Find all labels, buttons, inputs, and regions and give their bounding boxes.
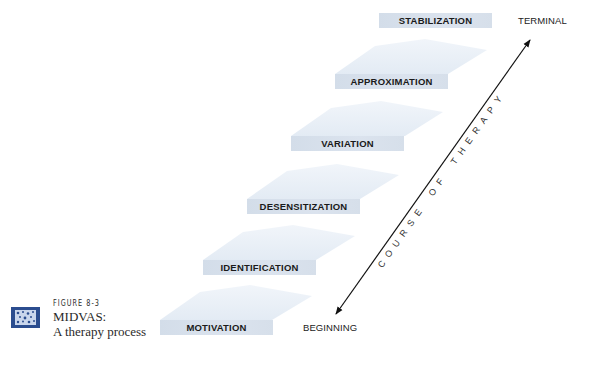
axis-letter: P xyxy=(485,105,497,116)
axis-letter: O xyxy=(383,248,395,260)
figure-number: FIGURE 8-3 xyxy=(53,298,132,309)
figure-subtitle: A therapy process xyxy=(53,324,146,339)
figure-title: MIDVAS: xyxy=(53,309,146,324)
axis-letter: H xyxy=(456,145,468,156)
figure-pattern-icon xyxy=(11,307,40,328)
midvas-diagram: MOTIVATION IDENTIFICATION DESENSITIZATIO… xyxy=(0,0,594,365)
axis-letter: T xyxy=(449,156,461,167)
axis-letter: C xyxy=(376,258,388,269)
axis-letter: S xyxy=(405,218,417,229)
axis-letter: F xyxy=(434,176,446,187)
axis-letter: A xyxy=(478,115,490,126)
axis-letter: O xyxy=(426,186,438,198)
figure-caption: FIGURE 8-3 MIDVAS: A therapy process xyxy=(53,298,146,339)
arrow-line xyxy=(336,40,530,314)
course-of-therapy-label: COURSEOFTHERAPY xyxy=(376,94,504,269)
axis-letter: E xyxy=(463,135,475,146)
axis-letter: Y xyxy=(492,94,504,105)
beginning-label: BEGINNING xyxy=(303,322,357,333)
axis-letter: R xyxy=(470,124,482,135)
axis-letter: E xyxy=(412,207,424,218)
axis-letter: R xyxy=(398,227,410,238)
axis-letter: U xyxy=(390,238,402,249)
terminal-label: TERMINAL xyxy=(518,15,567,26)
